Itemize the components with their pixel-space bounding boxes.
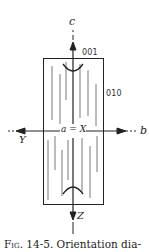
z-axis-label: Z bbox=[77, 211, 84, 221]
caption-number: 14-5. bbox=[26, 238, 53, 250]
c-axis-label: c bbox=[69, 16, 75, 27]
z-arrowhead bbox=[70, 212, 76, 220]
b-axis-label: b bbox=[140, 125, 147, 136]
y-axis-label: Y bbox=[19, 135, 26, 145]
caption-fig-label: Fig. bbox=[4, 238, 23, 250]
face-010-label: 010 bbox=[106, 90, 122, 98]
face-001-label: 001 bbox=[82, 49, 98, 57]
caption-text: Orientation dia- bbox=[57, 238, 141, 250]
c-arrowhead bbox=[70, 42, 76, 50]
origin-label: a = X bbox=[61, 125, 86, 134]
b-arrowhead bbox=[117, 128, 126, 134]
figure-caption: Fig. 14-5. Orientation dia- bbox=[4, 238, 149, 250]
